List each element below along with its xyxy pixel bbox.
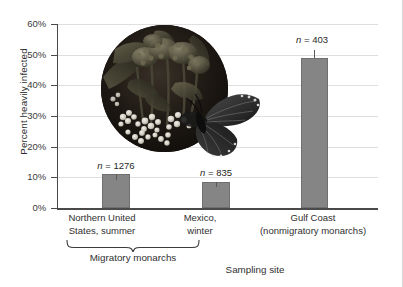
- leader-line-bar3: [314, 50, 315, 58]
- category-label-northern-united-states-summer: Northern United States, summer: [62, 212, 142, 237]
- ytick-label-10: 10%: [2, 171, 46, 182]
- annotation-n-bar2: n = 835: [180, 167, 252, 178]
- ytick-mark-10: [51, 177, 57, 178]
- x-axis-title: Sampling site: [185, 264, 325, 275]
- n-value-bar3: 403: [312, 34, 328, 45]
- leader-line-bar2: [216, 182, 217, 187]
- ytick-mark-40: [51, 85, 57, 86]
- category-label-gulf-coast: Gulf Coast (nonmigratory monarchs): [243, 212, 383, 237]
- leader-line-bar1: [116, 174, 117, 180]
- ytick-mark-20: [51, 147, 57, 148]
- bar-chart-figure: 60% 50% 40% 30% 20% 10% 0% Percent heavi…: [0, 0, 403, 287]
- group-brace-icon: [66, 240, 200, 252]
- n-value-bar2: 835: [216, 167, 232, 178]
- annotation-n-bar1: n = 1276: [76, 160, 156, 171]
- n-italic-bar1: n: [97, 160, 102, 171]
- annotation-n-bar3: n = 403: [274, 34, 350, 45]
- ytick-mark-60: [51, 24, 57, 25]
- y-axis-title: Percent heavily infected: [18, 32, 29, 172]
- category-label-mexico-winter: Mexico, winter: [166, 212, 234, 237]
- n-equals-bar2: =: [208, 167, 216, 178]
- n-equals-bar3: =: [304, 34, 312, 45]
- ytick-mark-50: [51, 55, 57, 56]
- group-label-migratory-monarchs: Migratory monarchs: [62, 252, 204, 263]
- x-axis-line: [57, 208, 378, 210]
- monarch-butterfly-icon: [179, 87, 265, 161]
- n-italic-bar3: n: [296, 34, 301, 45]
- ytick-label-0: 0%: [2, 202, 46, 213]
- photo-inset: [101, 25, 228, 152]
- y-axis-line: [57, 24, 58, 209]
- n-italic-bar2: n: [200, 167, 205, 178]
- ytick-mark-0: [51, 208, 57, 209]
- ytick-mark-30: [51, 116, 57, 117]
- bar-gulf-coast: [301, 58, 328, 208]
- ytick-label-60: 60%: [2, 18, 46, 29]
- n-value-bar1: 1276: [113, 160, 134, 171]
